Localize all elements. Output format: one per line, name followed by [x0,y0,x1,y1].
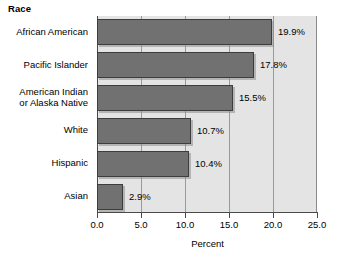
x-axis-line [97,212,318,213]
bar-value-label: 17.8% [260,59,287,70]
x-axis-tick [317,213,318,218]
category-label: Hispanic [52,157,88,169]
bar [97,184,123,210]
x-axis-tick-label: 25.0 [297,219,337,230]
x-axis-tick-label: 15.0 [209,219,249,230]
bar-value-label: 2.9% [129,191,151,202]
x-axis-tick-label: 20.0 [253,219,293,230]
bar [97,85,233,111]
x-axis-tick-label: 5.0 [121,219,161,230]
x-axis-tick [141,213,142,218]
gridline [141,16,142,213]
gridline [229,16,230,213]
x-axis-title: Percent [97,238,318,249]
chart-title: Race [8,3,31,14]
category-label: African American [16,26,88,38]
category-label: Asian [64,190,88,202]
bar [97,52,254,78]
category-label: Pacific Islander [24,59,88,71]
x-axis-tick-label: 0.0 [77,219,117,230]
bar-value-label: 15.5% [239,92,266,103]
bar [97,151,189,177]
bar-value-label: 10.7% [197,125,224,136]
x-axis-tick-label: 10.0 [165,219,205,230]
x-axis-tick [97,213,98,218]
bar-value-label: 10.4% [195,158,222,169]
gridline [185,16,186,213]
category-label: White [64,124,88,136]
x-axis-tick [229,213,230,218]
bar-value-label: 19.9% [278,26,305,37]
x-axis-tick [185,213,186,218]
x-axis-tick [273,213,274,218]
category-label: American Indian or Alaska Native [19,86,88,109]
plot-area [97,16,317,213]
bar [97,19,272,45]
bar [97,118,191,144]
bar-chart: Race 0.05.010.015.020.025.0 19.9%17.8%15… [0,0,340,262]
gridline [273,16,274,213]
